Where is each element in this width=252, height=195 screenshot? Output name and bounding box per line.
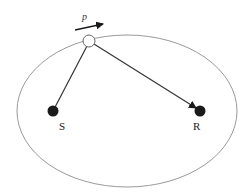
node-p bbox=[83, 35, 95, 47]
node-r bbox=[195, 106, 206, 117]
edge-p-to-r bbox=[94, 44, 196, 108]
velocity-arrow bbox=[75, 24, 103, 30]
node-s bbox=[48, 106, 59, 117]
velocity-label: p bbox=[81, 11, 87, 22]
diagram-canvas: p S R bbox=[0, 0, 252, 195]
node-s-label: S bbox=[59, 120, 65, 132]
node-r-label: R bbox=[193, 120, 201, 132]
edge-p-to-s bbox=[53, 46, 87, 111]
